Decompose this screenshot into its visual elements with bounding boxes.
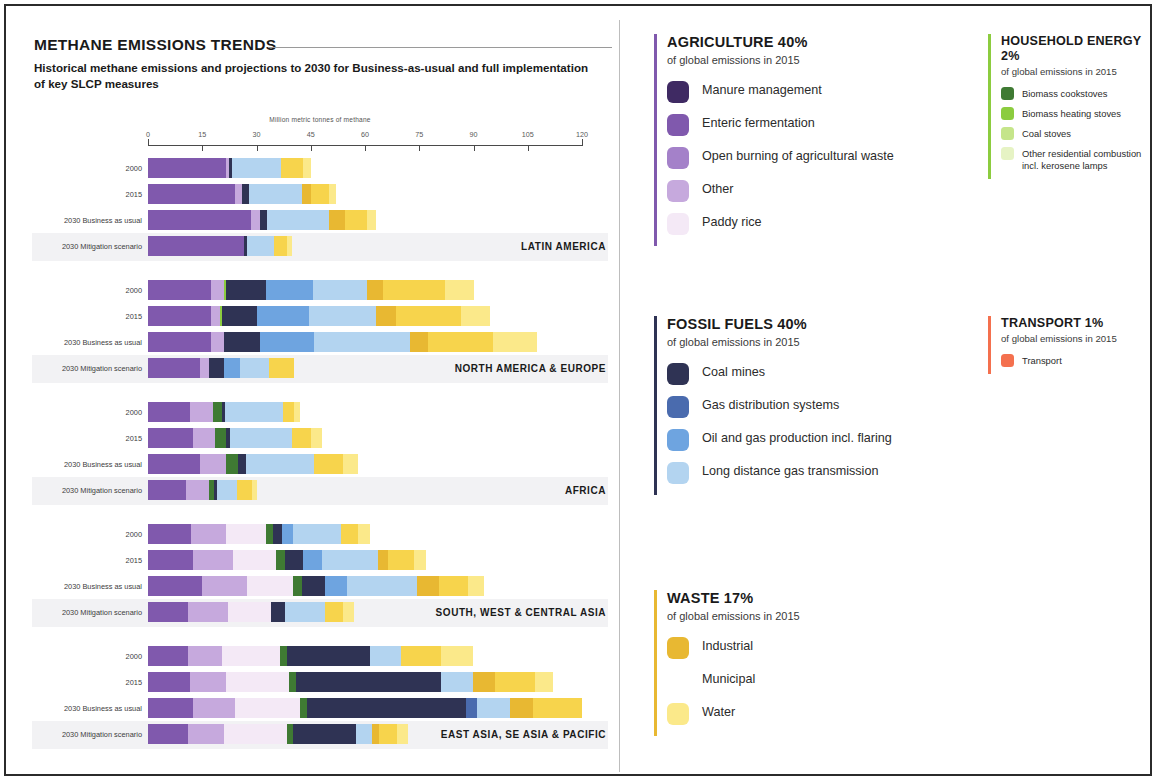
chart-row[interactable]: 2000 (20, 401, 620, 423)
stacked-bar[interactable] (148, 402, 300, 422)
legend-item[interactable]: Enteric fermentation (667, 114, 954, 136)
bar-segment-enteric-fermentation (148, 332, 211, 352)
bar-segment-municipal-waste (283, 402, 294, 422)
chart-row[interactable]: 2000 (20, 157, 620, 179)
stacked-bar[interactable] (148, 698, 582, 718)
stacked-bar[interactable] (148, 332, 539, 352)
bar-segment-paddy-rice (226, 672, 289, 692)
x-axis-tick-label: 90 (470, 130, 478, 139)
bar-segment-other-agriculture (211, 332, 224, 352)
bar-segment-other-agriculture (186, 480, 210, 500)
stacked-bar[interactable] (148, 576, 484, 596)
bar-segment-water-waste (445, 280, 474, 300)
chart-row[interactable]: 2015 (20, 427, 620, 449)
stacked-bar[interactable] (148, 236, 296, 256)
row-label: 2030 Business as usual (26, 704, 148, 713)
stacked-bar[interactable] (148, 358, 296, 378)
chart-row[interactable]: 2030 Mitigation scenarioEAST ASIA, SE AS… (20, 723, 620, 745)
bar-segment-long-distance-gas (322, 550, 378, 570)
legend-item[interactable]: Long distance gas transmission (667, 462, 954, 484)
stacked-bar[interactable] (148, 524, 372, 544)
legend-title-agriculture: AGRICULTURE 40% (667, 34, 954, 51)
chart-row[interactable]: 2030 Mitigation scenarioLATIN AMERICA (20, 235, 620, 257)
stacked-bar[interactable] (148, 672, 553, 692)
stacked-bar[interactable] (148, 280, 477, 300)
chart-row[interactable]: 2030 Business as usual (20, 453, 620, 475)
chart-row[interactable]: 2015 (20, 671, 620, 693)
row-label: 2000 (26, 408, 148, 417)
legend-item[interactable]: Industrial (667, 637, 954, 659)
stacked-bar[interactable] (148, 724, 408, 744)
bar-segment-enteric-fermentation (148, 524, 191, 544)
legend-item[interactable]: Other (667, 180, 954, 202)
legend-item-label: Paddy rice (702, 213, 762, 230)
legend-item[interactable]: Biomass heating stoves (1001, 107, 1148, 120)
chart-row[interactable]: 2030 Mitigation scenarioSOUTH, WEST & CE… (20, 601, 620, 623)
chart-row[interactable]: 2000 (20, 523, 620, 545)
stacked-bar[interactable] (148, 602, 354, 622)
stacked-bar[interactable] (148, 428, 322, 448)
bar-segment-paddy-rice (247, 576, 292, 596)
bar-segment-municipal-waste (281, 158, 303, 178)
chart-row[interactable]: 2015 (20, 305, 620, 327)
legend-item[interactable]: Transport (1001, 354, 1148, 367)
stacked-bar[interactable] (148, 184, 336, 204)
chart-row[interactable]: 2030 Business as usual (20, 575, 620, 597)
chart-row[interactable]: 2030 Business as usual (20, 697, 620, 719)
bar-segment-enteric-fermentation (148, 454, 200, 474)
bar-segment-other-agriculture (235, 184, 242, 204)
bar-segment-water-waste (493, 332, 536, 352)
bar-segment-enteric-fermentation (148, 236, 244, 256)
legend-item[interactable]: Paddy rice (667, 213, 954, 235)
chart-group: 200020152030 Business as usual2030 Mitig… (20, 645, 620, 749)
bar-segment-long-distance-gas (293, 524, 342, 544)
legend-item[interactable]: Open burning of agricultural waste (667, 147, 954, 169)
chart-row[interactable]: 2000 (20, 279, 620, 301)
bar-segment-coal-mines (287, 646, 370, 666)
row-label: 2000 (26, 530, 148, 539)
bar-segment-municipal-waste (383, 280, 444, 300)
legend-swatch-icon (667, 429, 689, 451)
stacked-bar[interactable] (148, 158, 311, 178)
stacked-bar[interactable] (148, 210, 376, 230)
stacked-bar[interactable] (148, 306, 492, 326)
stacked-bar[interactable] (148, 454, 358, 474)
bar-segment-municipal-waste (401, 646, 441, 666)
bar-segment-coal-mines (222, 306, 256, 326)
legend-swatch-icon (667, 180, 689, 202)
stacked-bar[interactable] (148, 646, 474, 666)
stacked-bar[interactable] (148, 550, 426, 570)
bar-segment-water-waste (343, 454, 357, 474)
chart-row[interactable]: 2030 Business as usual (20, 331, 620, 353)
legend-item[interactable]: Water (667, 703, 954, 725)
row-label: 2015 (26, 678, 148, 687)
bar-segment-biomass-cookstoves (293, 576, 302, 596)
stacked-bar[interactable] (148, 480, 264, 500)
legend-subtitle-waste: of global emissions in 2015 (667, 609, 954, 623)
bar-segment-long-distance-gas (240, 358, 269, 378)
legend-accent-bar-transport (988, 316, 991, 374)
chart-row[interactable]: 2030 Business as usual (20, 209, 620, 231)
legend-item[interactable]: Oil and gas production incl. flaring (667, 429, 954, 451)
legend-swatch-icon (667, 703, 689, 725)
chart-row[interactable]: 2030 Mitigation scenarioAFRICA (20, 479, 620, 501)
row-label: 2030 Business as usual (26, 582, 148, 591)
legend-item[interactable]: Other residential combustion incl. keros… (1001, 147, 1148, 172)
legend-item[interactable]: Biomass cookstoves (1001, 87, 1148, 100)
legend-item[interactable]: Municipal (667, 670, 954, 692)
chart-row[interactable]: 2030 Mitigation scenarioNORTH AMERICA & … (20, 357, 620, 379)
legend-swatch-icon (667, 462, 689, 484)
bar-segment-water-waste (303, 158, 311, 178)
bar-segment-industrial-waste (410, 332, 428, 352)
legend-item[interactable]: Gas distribution systems (667, 396, 954, 418)
legend-item[interactable]: Manure management (667, 81, 954, 103)
bar-segment-industrial-waste (510, 698, 534, 718)
legend-swatch-icon (667, 670, 689, 692)
bar-segment-coal-mines (238, 454, 245, 474)
legend-item[interactable]: Coal stoves (1001, 127, 1148, 140)
bar-segment-long-distance-gas (249, 184, 301, 204)
chart-row[interactable]: 2015 (20, 183, 620, 205)
chart-row[interactable]: 2000 (20, 645, 620, 667)
legend-item[interactable]: Coal mines (667, 363, 954, 385)
chart-row[interactable]: 2015 (20, 549, 620, 571)
